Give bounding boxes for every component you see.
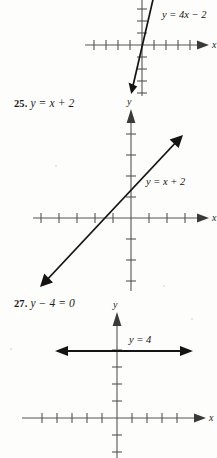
y-axis-label: y — [112, 299, 118, 310]
scan-speck — [10, 348, 12, 350]
x-axis-label: x — [211, 39, 217, 50]
graph-canvas-middle: x y y = x + 2 — [33, 103, 217, 291]
y-axis-label: y — [126, 96, 132, 107]
plotted-line — [44, 139, 179, 283]
figure-y-equals-4x-minus-2: x y = 4x − 2 — [85, 0, 217, 96]
line-equation-label: y = 4 — [128, 334, 152, 345]
x-axis-label: x — [211, 212, 217, 223]
x-axis-arrow — [194, 414, 206, 423]
scan-speck — [55, 165, 57, 167]
scan-speck — [163, 285, 165, 287]
figure-y-equals-4: x y y = 4 — [22, 300, 217, 458]
answer-key-page: x y = 4x − 2 25.y = x + 2 — [0, 0, 217, 458]
graph-canvas-top: x y = 4x − 2 — [85, 0, 217, 96]
figure-y-equals-x-plus-2: x y y = x + 2 — [33, 103, 217, 291]
scan-speck — [191, 318, 193, 320]
x-axis-arrow — [197, 214, 209, 223]
line-equation-label: y = x + 2 — [145, 176, 186, 187]
y-axis-arrow — [127, 109, 136, 123]
x-axis-label: x — [208, 412, 214, 423]
exercise-number: 25. — [14, 98, 27, 109]
line-arrow-left — [55, 346, 68, 356]
x-axis-arrow — [197, 41, 209, 50]
graph-canvas-bottom: x y y = 4 — [22, 300, 217, 458]
line-equation-label: y = 4x − 2 — [161, 9, 207, 20]
y-axis-arrow — [113, 312, 122, 326]
line-arrow-right — [180, 346, 193, 356]
